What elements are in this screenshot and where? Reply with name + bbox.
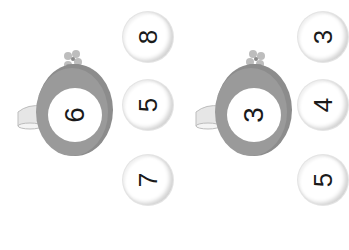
option-bubble[interactable]: 7: [123, 155, 173, 205]
pot-1: 6: [10, 44, 120, 164]
option-label: 8: [135, 30, 161, 44]
option-bubble[interactable]: 4: [298, 80, 348, 130]
pot-number: 6: [48, 88, 102, 142]
option-label: 7: [135, 173, 161, 187]
pot-number: 3: [227, 88, 281, 142]
option-label: 5: [310, 173, 336, 187]
option-bubble[interactable]: 8: [123, 12, 173, 62]
pot-2: 3: [190, 44, 300, 164]
option-bubble[interactable]: 3: [298, 12, 348, 62]
option-label: 4: [310, 98, 336, 112]
option-label: 3: [310, 30, 336, 44]
option-bubble[interactable]: 5: [123, 80, 173, 130]
option-label: 5: [135, 98, 161, 112]
option-bubble[interactable]: 5: [298, 155, 348, 205]
